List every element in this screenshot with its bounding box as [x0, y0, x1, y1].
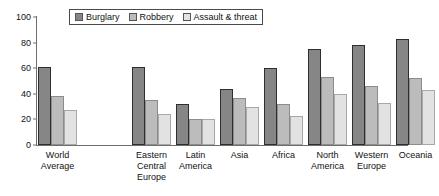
- bar[interactable]: [64, 110, 77, 145]
- bar-group-bars: [352, 17, 391, 145]
- bar[interactable]: [220, 89, 233, 145]
- legend-swatch-icon: [129, 13, 137, 21]
- category-label-line: America: [166, 161, 226, 172]
- bar-group-bars: [132, 17, 171, 145]
- bar-group: [264, 17, 303, 145]
- category-label-line: Europe: [122, 172, 182, 183]
- bar-group: [220, 17, 259, 145]
- bar[interactable]: [378, 103, 391, 145]
- bar[interactable]: [365, 86, 378, 145]
- category-label: Oceania: [386, 150, 439, 161]
- plot-area: 020406080100: [36, 17, 408, 145]
- bar[interactable]: [352, 45, 365, 145]
- bar[interactable]: [264, 68, 277, 145]
- x-axis-line: [36, 145, 408, 146]
- bar-group-bars: [264, 17, 303, 145]
- bar[interactable]: [145, 100, 158, 145]
- legend-label: Robbery: [140, 13, 174, 22]
- bar[interactable]: [290, 116, 303, 145]
- legend-entry[interactable]: Burglary: [75, 13, 120, 22]
- bar[interactable]: [189, 119, 202, 145]
- bar-group: [352, 17, 391, 145]
- bar-group: [38, 17, 77, 145]
- bar-group-bars: [176, 17, 215, 145]
- legend-label: Burglary: [86, 13, 120, 22]
- bar[interactable]: [202, 119, 215, 145]
- bar-group: [176, 17, 215, 145]
- bar[interactable]: [422, 90, 435, 145]
- bar-group-bars: [308, 17, 347, 145]
- bar[interactable]: [277, 104, 290, 145]
- bar-group: [396, 17, 435, 145]
- legend-label: Assault & threat: [194, 13, 258, 22]
- bar[interactable]: [176, 104, 189, 145]
- bar[interactable]: [246, 107, 259, 145]
- legend-swatch-icon: [183, 13, 191, 21]
- bar-group-bars: [396, 17, 435, 145]
- bar[interactable]: [158, 114, 171, 145]
- bar[interactable]: [132, 67, 145, 145]
- bar[interactable]: [321, 77, 334, 145]
- bar-groups: [36, 17, 408, 145]
- category-label-line: World: [28, 150, 88, 161]
- legend-entry[interactable]: Robbery: [129, 13, 174, 22]
- category-label: WorldAverage: [28, 150, 88, 172]
- bar[interactable]: [396, 39, 409, 145]
- category-label-line: Europe: [342, 161, 402, 172]
- category-label-line: Oceania: [386, 150, 439, 161]
- legend-entry[interactable]: Assault & threat: [183, 13, 258, 22]
- bar[interactable]: [308, 49, 321, 145]
- bar[interactable]: [233, 98, 246, 145]
- bar[interactable]: [409, 78, 422, 145]
- bar-group: [132, 17, 171, 145]
- bar-group: [308, 17, 347, 145]
- bar[interactable]: [38, 67, 51, 145]
- category-label-line: Average: [28, 161, 88, 172]
- bar[interactable]: [51, 96, 64, 145]
- bar-group-bars: [220, 17, 259, 145]
- chart-legend: BurglaryRobberyAssault & threat: [69, 9, 263, 25]
- bar-group-bars: [38, 17, 77, 145]
- bar[interactable]: [334, 94, 347, 145]
- legend-swatch-icon: [75, 13, 83, 21]
